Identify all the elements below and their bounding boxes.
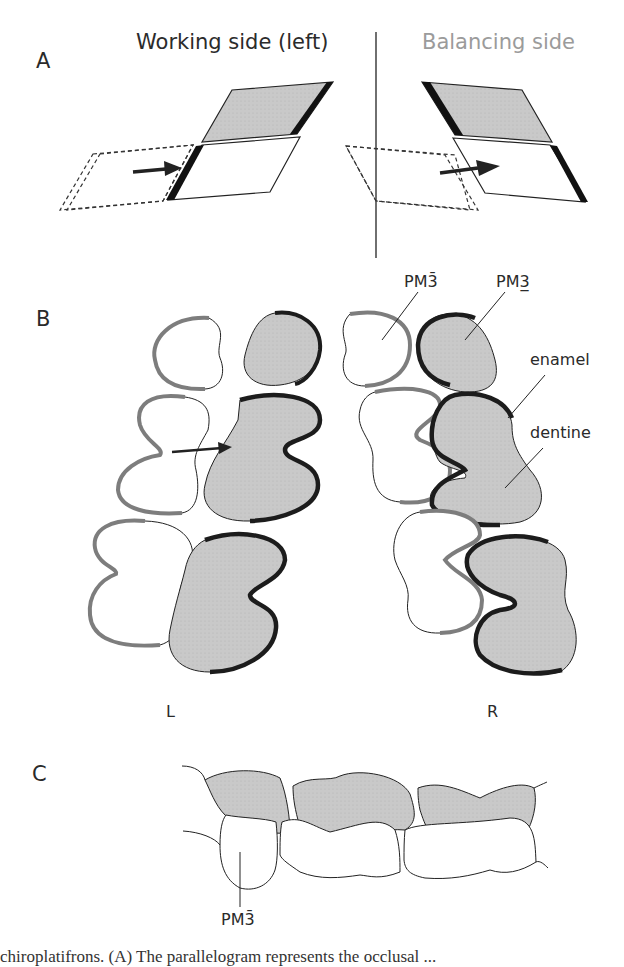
left-side-label: L bbox=[166, 702, 175, 721]
working-side-title: Working side (left) bbox=[136, 30, 328, 54]
figure-caption: chiroplatifrons. (A) The parallelogram r… bbox=[0, 947, 436, 967]
panel-c-lateral-view bbox=[182, 766, 548, 907]
panel-c-letter: C bbox=[32, 762, 47, 786]
label-upper-pm3: PM3̲ bbox=[496, 272, 530, 291]
right-side-label: R bbox=[487, 702, 498, 721]
label-pm3-lateral: PM3̄ bbox=[221, 910, 255, 929]
panel-b-left-column bbox=[90, 313, 320, 672]
panel-a-working-side bbox=[60, 82, 333, 210]
panel-a-letter: A bbox=[36, 49, 50, 73]
label-enamel: enamel bbox=[530, 350, 590, 369]
panel-a-balancing-side bbox=[346, 82, 588, 210]
label-dentine: dentine bbox=[530, 423, 591, 442]
balancing-side-title: Balancing side bbox=[422, 30, 575, 54]
panel-b-letter: B bbox=[36, 307, 50, 331]
label-lower-pm3: PM3̄ bbox=[404, 272, 438, 291]
